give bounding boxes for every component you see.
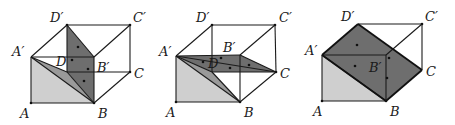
figure-1: D′ C′ A′ D B′ C A B [11,10,146,121]
label-b: B [389,104,400,119]
label-b: B [97,106,108,121]
label-c1: C′ [133,10,146,25]
label-a: A [19,106,29,121]
label-a1: A′ [11,44,24,59]
label-c: C [134,66,144,81]
figure-2: D′ C′ A′ B′ D C A B [158,10,292,120]
label-c: C [426,64,436,79]
label-a: A [312,104,322,119]
label-c1: C′ [425,9,438,24]
label-a1: A′ [158,44,171,59]
label-d1: D′ [195,10,209,25]
cube-diagrams: D′ C′ A′ D B′ C A B [0,0,455,125]
label-b: B [243,105,254,120]
figure-3: D′ C′ A′ B′ C A B [304,9,438,119]
label-d1: D′ [49,10,63,25]
label-b1: B′ [222,40,236,55]
label-c: C [280,66,290,81]
label-b1: B′ [96,60,110,75]
label-a1: A′ [304,43,317,58]
label-d: D [207,56,219,71]
label-d1: D′ [340,9,354,24]
label-a: A [165,105,175,120]
label-c1: C′ [279,10,292,25]
label-b1: B′ [368,60,382,75]
label-d: D [55,54,67,69]
